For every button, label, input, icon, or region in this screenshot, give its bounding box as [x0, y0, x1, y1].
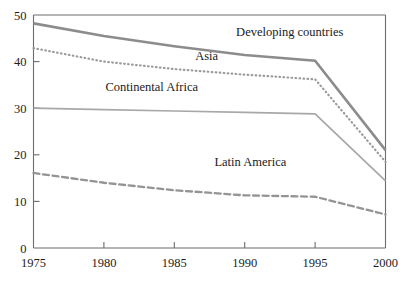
x-axis-tick-label: 1975	[21, 256, 46, 270]
y-axis-tick-label: 10	[14, 195, 27, 209]
y-axis-tick-labels: 01020304050	[14, 9, 27, 256]
series-line-continental-africa	[34, 108, 386, 181]
series-label-developing-countries: Developing countries	[236, 25, 343, 39]
x-axis-tick-label: 1980	[91, 256, 116, 270]
series-label-latin-america: Latin America	[214, 155, 286, 169]
series-annotation-labels: Developing countriesAsiaContinental Afri…	[105, 25, 343, 169]
y-axis-ticks	[34, 62, 40, 202]
series-line-latin-america	[34, 173, 386, 214]
x-axis-ticks	[104, 242, 315, 248]
y-axis-tick-label: 50	[14, 9, 27, 23]
y-axis-tick-label: 30	[14, 102, 27, 116]
x-axis-tick-label: 2000	[373, 256, 398, 270]
series-label-continental-africa: Continental Africa	[105, 80, 198, 94]
series-label-asia: Asia	[195, 49, 218, 63]
y-axis-tick-label: 0	[20, 242, 26, 256]
chart-container: 01020304050 197519801985199019952000 Dev…	[0, 0, 401, 282]
x-axis-tick-labels: 197519801985199019952000	[21, 256, 398, 270]
y-axis-tick-label: 40	[14, 55, 27, 69]
y-axis-tick-label: 20	[14, 148, 27, 162]
x-axis-tick-label: 1985	[162, 256, 187, 270]
x-axis-tick-label: 1990	[232, 256, 257, 270]
line-chart: 01020304050 197519801985199019952000 Dev…	[0, 0, 401, 282]
x-axis-tick-label: 1995	[303, 256, 328, 270]
series-line-asia	[34, 48, 386, 162]
